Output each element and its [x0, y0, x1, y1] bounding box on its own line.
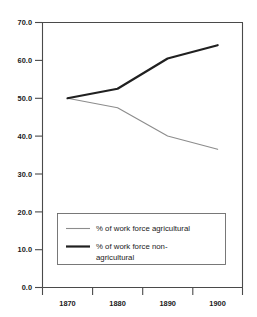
y-axis-label-50: 50.0 [18, 94, 32, 103]
x-axis-labels: 1870 1880 1890 1900 [59, 299, 226, 308]
y-axis-label-0: 0.0 [22, 283, 32, 292]
chart-container: 70.0 60.0 50.0 40.0 30.0 20.0 10.0 0.0 1… [0, 0, 257, 317]
y-axis-label-60: 60.0 [18, 56, 32, 65]
y-axis-label-70: 70.0 [18, 18, 32, 27]
legend-label-non-agricultural-line1: % of work force non- [96, 242, 168, 251]
x-axis-label-1870: 1870 [59, 299, 75, 308]
x-axis-label-1890: 1890 [159, 299, 175, 308]
series-line-non-agricultural [68, 45, 218, 98]
y-axis-label-30: 30.0 [18, 170, 32, 179]
legend-label-non-agricultural-line2: agricultural [96, 253, 134, 262]
x-axis-label-1880: 1880 [109, 299, 125, 308]
data-series-group [68, 45, 218, 149]
y-axis-ticks [35, 23, 43, 288]
legend-label-agricultural: % of work force agricultural [96, 224, 190, 233]
chart-legend: % of work force agricultural % of work f… [58, 214, 226, 265]
x-axis-label-1900: 1900 [209, 299, 225, 308]
legend-box [58, 214, 226, 265]
y-axis-label-40: 40.0 [18, 132, 32, 141]
y-axis-label-10: 10.0 [18, 245, 32, 254]
x-axis-ticks [43, 288, 243, 296]
y-axis-labels: 70.0 60.0 50.0 40.0 30.0 20.0 10.0 0.0 [18, 18, 32, 292]
series-line-agricultural [68, 98, 218, 149]
y-axis-label-20: 20.0 [18, 208, 32, 217]
line-chart: 70.0 60.0 50.0 40.0 30.0 20.0 10.0 0.0 1… [0, 0, 257, 317]
